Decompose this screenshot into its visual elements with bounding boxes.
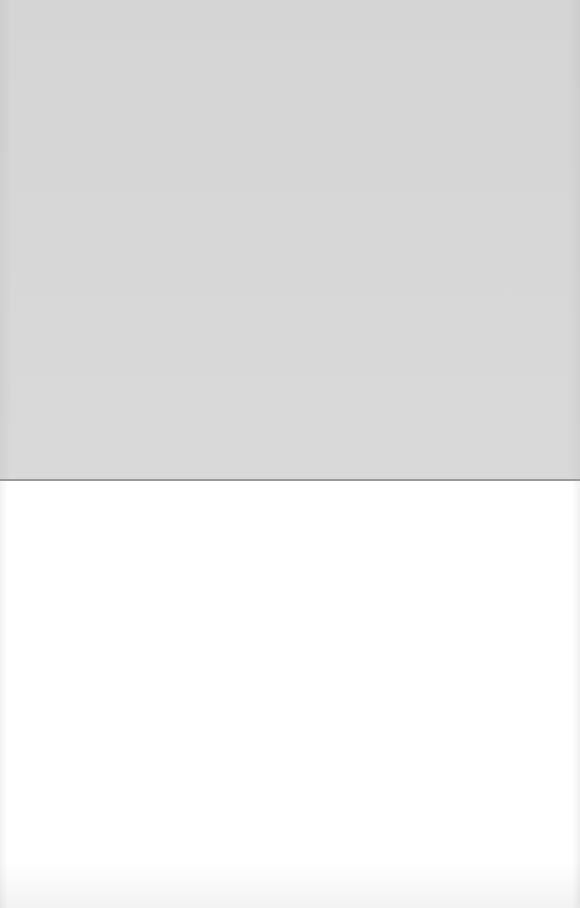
- scanned-page: [0, 0, 580, 908]
- gray-upper-region: [0, 0, 580, 480]
- blank-white-region: [0, 481, 580, 908]
